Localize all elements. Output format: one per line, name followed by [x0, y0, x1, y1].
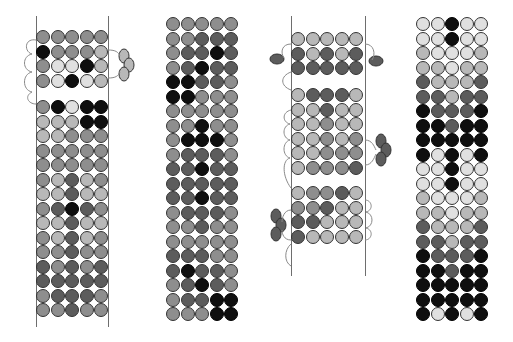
picot-bead-cluster: [369, 56, 383, 66]
thread-loop: [286, 244, 291, 266]
thread-loop: [25, 40, 37, 104]
thread-loop: [283, 72, 291, 90]
thread-overlay: [0, 0, 513, 342]
picot-bead-cluster: [119, 49, 134, 81]
thread-loop: [365, 140, 376, 165]
thread-loop: [108, 50, 120, 78]
thread-loop: [284, 110, 291, 188]
picot-bead-cluster: [270, 54, 284, 64]
picot-bead-cluster: [376, 134, 391, 166]
thread-loop: [282, 44, 374, 60]
thread-loop: [365, 200, 372, 240]
